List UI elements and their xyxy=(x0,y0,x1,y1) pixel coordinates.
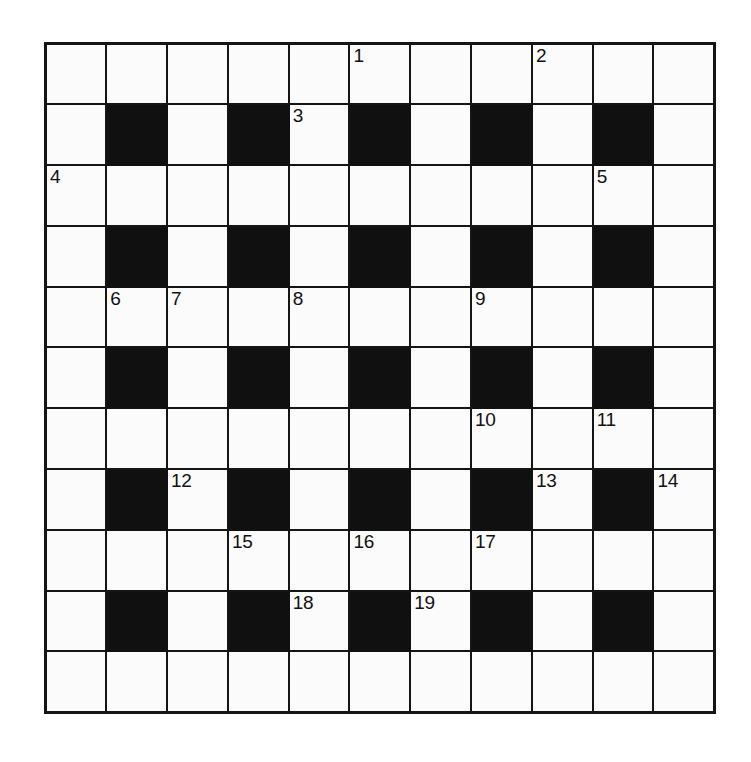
crossword-cell[interactable]: 10 xyxy=(471,408,532,469)
crossword-cell[interactable] xyxy=(46,104,107,165)
crossword-cell[interactable] xyxy=(471,165,532,226)
crossword-cell[interactable] xyxy=(410,287,471,348)
crossword-cell[interactable] xyxy=(228,287,289,348)
crossword-cell[interactable] xyxy=(653,408,714,469)
crossword-cell[interactable] xyxy=(46,651,107,712)
crossword-cell[interactable]: 14 xyxy=(653,469,714,530)
crossword-row: 12 xyxy=(46,44,715,105)
crossword-cell[interactable] xyxy=(653,287,714,348)
crossword-cell[interactable] xyxy=(46,226,107,287)
crossword-cell[interactable] xyxy=(532,530,593,591)
crossword-cell[interactable] xyxy=(653,591,714,652)
crossword-grid[interactable]: 12345678910111213141516171819 xyxy=(44,42,716,714)
crossword-cell[interactable] xyxy=(410,165,471,226)
crossword-cell[interactable] xyxy=(471,651,532,712)
crossword-cell[interactable]: 19 xyxy=(410,591,471,652)
crossword-cell[interactable] xyxy=(106,408,167,469)
crossword-cell[interactable] xyxy=(106,530,167,591)
crossword-cell[interactable] xyxy=(106,165,167,226)
crossword-cell[interactable] xyxy=(410,44,471,105)
crossword-cell[interactable] xyxy=(167,408,228,469)
crossword-cell[interactable] xyxy=(532,651,593,712)
crossword-cell[interactable]: 6 xyxy=(106,287,167,348)
crossword-cell[interactable] xyxy=(289,347,350,408)
crossword-cell[interactable] xyxy=(653,104,714,165)
crossword-cell[interactable] xyxy=(289,651,350,712)
crossword-cell[interactable] xyxy=(167,651,228,712)
crossword-cell[interactable]: 12 xyxy=(167,469,228,530)
crossword-cell[interactable]: 7 xyxy=(167,287,228,348)
crossword-cell[interactable] xyxy=(106,651,167,712)
crossword-cell[interactable] xyxy=(46,287,107,348)
crossword-cell[interactable] xyxy=(653,44,714,105)
crossword-cell[interactable] xyxy=(532,408,593,469)
crossword-cell[interactable] xyxy=(289,408,350,469)
crossword-cell[interactable] xyxy=(532,104,593,165)
crossword-cell[interactable] xyxy=(593,44,654,105)
crossword-cell[interactable] xyxy=(167,165,228,226)
crossword-cell[interactable] xyxy=(653,226,714,287)
crossword-cell[interactable] xyxy=(410,226,471,287)
crossword-cell[interactable] xyxy=(228,165,289,226)
crossword-cell[interactable] xyxy=(532,347,593,408)
crossword-cell[interactable] xyxy=(653,165,714,226)
crossword-cell[interactable] xyxy=(289,530,350,591)
crossword-cell[interactable]: 13 xyxy=(532,469,593,530)
crossword-cell[interactable]: 15 xyxy=(228,530,289,591)
crossword-cell[interactable] xyxy=(167,591,228,652)
crossword-cell[interactable] xyxy=(471,44,532,105)
crossword-cell[interactable]: 8 xyxy=(289,287,350,348)
crossword-cell[interactable]: 11 xyxy=(593,408,654,469)
crossword-cell[interactable] xyxy=(167,530,228,591)
crossword-cell[interactable]: 9 xyxy=(471,287,532,348)
crossword-cell[interactable] xyxy=(653,347,714,408)
crossword-cell[interactable] xyxy=(532,287,593,348)
crossword-cell[interactable] xyxy=(410,469,471,530)
crossword-cell[interactable] xyxy=(289,226,350,287)
crossword-cell[interactable] xyxy=(593,651,654,712)
crossword-cell[interactable] xyxy=(410,347,471,408)
crossword-cell[interactable]: 16 xyxy=(349,530,410,591)
crossword-cell[interactable]: 2 xyxy=(532,44,593,105)
crossword-cell[interactable] xyxy=(46,44,107,105)
crossword-cell[interactable] xyxy=(532,165,593,226)
crossword-cell[interactable] xyxy=(289,469,350,530)
crossword-cell[interactable] xyxy=(46,530,107,591)
crossword-block-cell xyxy=(106,591,167,652)
crossword-cell[interactable]: 4 xyxy=(46,165,107,226)
crossword-cell[interactable] xyxy=(228,408,289,469)
cell-number: 13 xyxy=(536,470,557,492)
crossword-cell[interactable] xyxy=(228,651,289,712)
crossword-cell[interactable] xyxy=(593,530,654,591)
crossword-cell[interactable] xyxy=(532,591,593,652)
crossword-cell[interactable] xyxy=(410,530,471,591)
crossword-cell[interactable]: 17 xyxy=(471,530,532,591)
crossword-cell[interactable] xyxy=(349,651,410,712)
crossword-cell[interactable] xyxy=(593,287,654,348)
crossword-cell[interactable]: 18 xyxy=(289,591,350,652)
crossword-cell[interactable] xyxy=(349,408,410,469)
crossword-cell[interactable] xyxy=(410,104,471,165)
crossword-cell[interactable] xyxy=(46,408,107,469)
crossword-cell[interactable] xyxy=(228,44,289,105)
crossword-cell[interactable] xyxy=(532,226,593,287)
crossword-cell[interactable] xyxy=(46,469,107,530)
crossword-cell[interactable]: 5 xyxy=(593,165,654,226)
crossword-cell[interactable]: 1 xyxy=(349,44,410,105)
crossword-cell[interactable] xyxy=(410,408,471,469)
crossword-cell[interactable] xyxy=(106,44,167,105)
crossword-cell[interactable] xyxy=(349,287,410,348)
crossword-cell[interactable] xyxy=(167,347,228,408)
crossword-cell[interactable] xyxy=(167,226,228,287)
crossword-cell[interactable] xyxy=(410,651,471,712)
crossword-cell[interactable] xyxy=(653,530,714,591)
crossword-cell[interactable] xyxy=(167,104,228,165)
crossword-cell[interactable] xyxy=(46,347,107,408)
crossword-cell[interactable] xyxy=(289,165,350,226)
crossword-cell[interactable] xyxy=(46,591,107,652)
crossword-cell[interactable] xyxy=(289,44,350,105)
crossword-cell[interactable] xyxy=(349,165,410,226)
crossword-cell[interactable] xyxy=(167,44,228,105)
crossword-cell[interactable] xyxy=(653,651,714,712)
crossword-cell[interactable]: 3 xyxy=(289,104,350,165)
